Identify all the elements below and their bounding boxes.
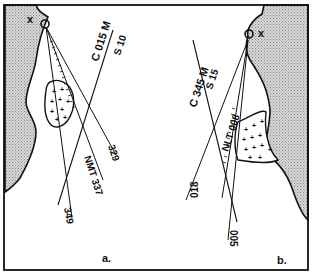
svg-text:+: + [252, 144, 256, 151]
bearing-label-005: 005 [228, 230, 239, 247]
panel-a: ++ +++ ++ ++ x C 015 M S 10 329 NMT 337 … [5, 5, 128, 264]
speed-label-a: S 10 [111, 33, 128, 56]
land-mass-left [5, 5, 48, 192]
position-marker-b: x [258, 27, 265, 39]
svg-text:+: + [50, 108, 54, 115]
bearing-label-018: 018 [189, 181, 200, 198]
svg-text:+: + [244, 126, 248, 133]
svg-text:+: + [244, 146, 248, 153]
svg-text:+: + [248, 154, 252, 161]
svg-text:+: + [66, 98, 70, 105]
svg-text:+: + [60, 86, 64, 93]
navigation-diagram: ++ +++ ++ ++ x C 015 M S 10 329 NMT 337 … [0, 0, 313, 277]
svg-text:+: + [258, 132, 262, 139]
svg-text:+: + [268, 146, 272, 153]
svg-text:+: + [260, 118, 264, 125]
svg-text:+: + [63, 114, 67, 121]
bearing-label-329: 329 [106, 143, 122, 163]
svg-text:+: + [260, 142, 264, 149]
land-mass-right [246, 5, 308, 220]
svg-text:+: + [58, 96, 62, 103]
svg-text:+: + [60, 106, 64, 113]
panel-b: +++ +++ ++++ ++ x C 345 M S 15 NLT 008 0… [186, 5, 308, 266]
panel-caption-a: a. [102, 252, 111, 264]
svg-text:+: + [258, 154, 262, 161]
svg-text:+: + [50, 98, 54, 105]
svg-text:+: + [252, 122, 256, 129]
svg-text:+: + [242, 136, 246, 143]
svg-text:+: + [250, 134, 254, 141]
position-marker-a: x [27, 13, 34, 25]
panel-caption-b: b. [277, 254, 287, 266]
bearing-label-349: 349 [62, 206, 76, 225]
